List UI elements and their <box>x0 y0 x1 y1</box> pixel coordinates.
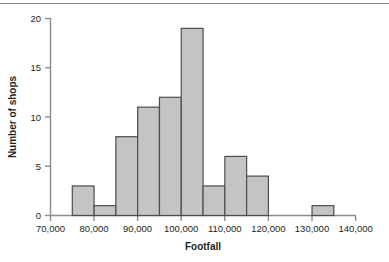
x-tick-label-100000: 100,000 <box>164 223 198 234</box>
x-axis-ticks <box>51 216 356 222</box>
x-axis-title: Footfall <box>185 241 221 252</box>
y-axis-title: Number of shops <box>7 75 18 158</box>
histogram-bar <box>94 206 116 216</box>
x-tick-label-80000: 80,000 <box>79 223 108 234</box>
x-tick-label-90000: 90,000 <box>123 223 152 234</box>
y-tick-label-0: 0 <box>36 210 41 221</box>
y-tick-label-10: 10 <box>30 112 41 123</box>
histogram-bar <box>116 137 138 216</box>
histogram-bar <box>312 206 334 216</box>
histogram-bar <box>203 186 225 216</box>
y-axis-ticks <box>45 19 51 216</box>
histogram-bar <box>138 107 160 215</box>
y-tick-label-15: 15 <box>30 62 41 73</box>
x-tick-label-110000: 110,000 <box>208 223 242 234</box>
histogram-bars <box>72 28 334 215</box>
x-tick-label-140000: 140,000 <box>338 223 372 234</box>
y-tick-label-20: 20 <box>30 13 41 24</box>
histogram-plot: 0 5 10 15 20 70,000 80,000 90,000 100,00… <box>0 0 389 262</box>
histogram-bar <box>72 186 94 216</box>
y-tick-label-5: 5 <box>36 161 41 172</box>
histogram-bar <box>159 97 181 215</box>
histogram-bar <box>247 176 269 215</box>
x-tick-label-130000: 130,000 <box>295 223 329 234</box>
histogram-bar <box>181 28 203 215</box>
x-tick-label-120000: 120,000 <box>251 223 285 234</box>
histogram-figure: 0 5 10 15 20 70,000 80,000 90,000 100,00… <box>0 0 389 262</box>
histogram-bar <box>225 156 247 215</box>
x-tick-label-70000: 70,000 <box>36 223 65 234</box>
